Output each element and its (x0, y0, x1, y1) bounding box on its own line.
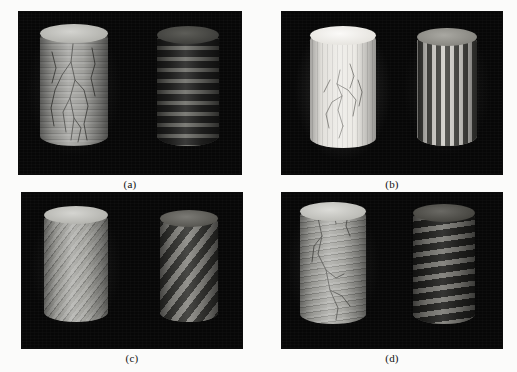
figure-panel-grid: (a) (0, 0, 517, 372)
panel-b-right-stripes (417, 32, 477, 146)
panel-c-caption: (c) (22, 352, 242, 364)
panel-b-left-cylinder (310, 30, 376, 148)
panel-d-right-helix (413, 208, 475, 324)
figure-panel-a: (a) (19, 12, 241, 174)
panel-b-right-body (417, 32, 477, 146)
panel-a-left-bands (40, 28, 108, 146)
panel-b-left-body (310, 30, 376, 148)
panel-c-left-body (44, 210, 108, 322)
panel-d-left-cylinder (300, 206, 366, 324)
panel-d-left-body (300, 206, 366, 324)
panel-b-caption: (b) (282, 178, 502, 190)
panel-c-right-body (160, 214, 218, 322)
figure-panel-b: (b) (282, 12, 502, 174)
panel-d-image (282, 193, 502, 348)
figure-panel-c: (c) (22, 193, 242, 348)
panel-a-right-body (157, 30, 219, 146)
panel-b-left-stripes (310, 30, 376, 148)
panel-d-right-body (413, 208, 475, 324)
panel-d-right-cylinder (413, 208, 475, 324)
panel-c-left-cylinder (44, 210, 108, 322)
panel-a-right-bands (157, 30, 219, 146)
panel-c-right-helix (160, 214, 218, 322)
panel-a-left-cylinder (40, 28, 108, 146)
panel-c-left-helix (44, 210, 108, 322)
panel-a-caption: (a) (19, 178, 241, 190)
panel-b-image (282, 12, 502, 174)
panel-d-left-helix (300, 206, 366, 324)
panel-a-right-cylinder (157, 30, 219, 146)
panel-a-image (19, 12, 241, 174)
panel-b-right-cylinder (417, 32, 477, 146)
panel-c-image (22, 193, 242, 348)
panel-c-right-cylinder (160, 214, 218, 322)
panel-d-caption: (d) (282, 352, 502, 364)
figure-panel-d: (d) (282, 193, 502, 348)
panel-a-left-body (40, 28, 108, 146)
